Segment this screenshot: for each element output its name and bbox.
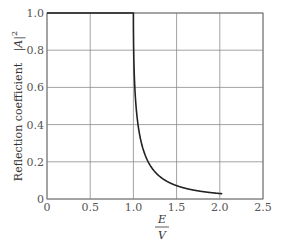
x-label-denominator: V (158, 229, 167, 242)
x-tick-label: 0 (44, 201, 51, 214)
y-tick-label: 0.8 (27, 44, 45, 57)
y-tick-label: 1.0 (27, 7, 45, 20)
y-tick-label: 0.6 (27, 81, 45, 94)
x-tick-label: 1.5 (168, 201, 186, 214)
y-axis-label: Reflection coefficient |A|2 (10, 31, 26, 181)
x-tick-label: 2.5 (254, 201, 272, 214)
svg-text:Reflection coefficient: Reflection coefficient |A|2 (10, 31, 26, 181)
y-label-math: A (12, 40, 25, 49)
x-axis-label: E V (155, 213, 169, 242)
x-label-numerator: E (157, 213, 166, 226)
x-tick-label: 0.5 (81, 201, 99, 214)
x-tick-label: 2.0 (211, 201, 229, 214)
y-tick-label: 0 (37, 193, 44, 206)
y-tick-label: 0.2 (27, 156, 45, 169)
y-tick-label: 0.4 (27, 119, 45, 132)
y-label-text: Reflection coefficient (12, 62, 25, 181)
y-axis-ticks: 00.20.40.60.81.0 (27, 7, 45, 206)
reflection-curve (47, 13, 222, 194)
y-label-exp: 2 (10, 31, 19, 36)
x-tick-label: 1.0 (125, 201, 143, 214)
reflection-coefficient-chart: 00.51.01.52.02.5 00.20.40.60.81.0 E V Re… (0, 0, 296, 244)
